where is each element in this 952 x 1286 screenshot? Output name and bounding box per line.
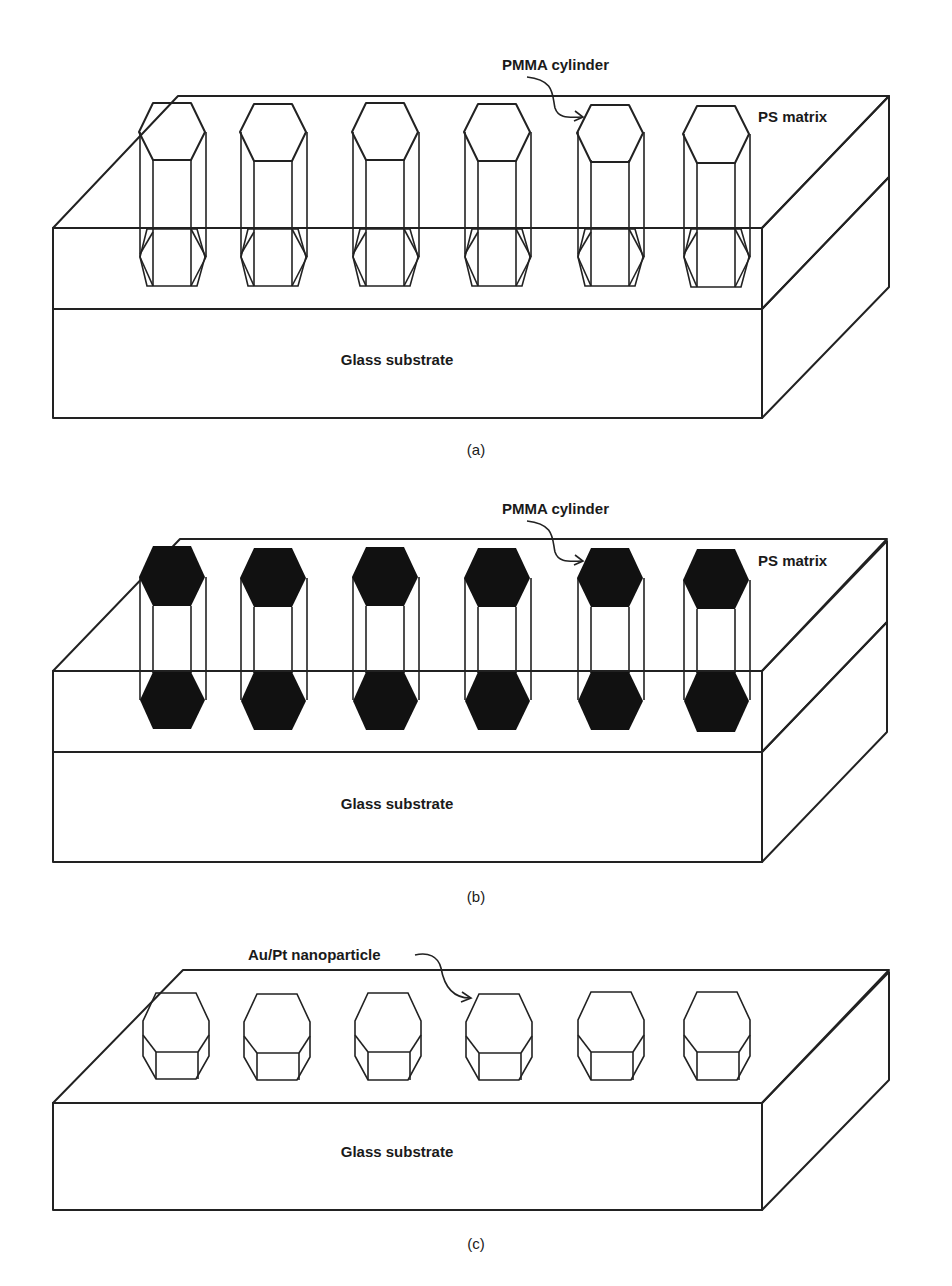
pmma-cylinder [683,106,750,287]
ps-matrix-label: PS matrix [758,108,828,125]
glass-substrate-label: Glass substrate [341,795,454,812]
panel-b: PMMA cylinder PS matrix Glass substrate … [53,500,887,905]
pmma-cylinder [139,103,206,286]
glass-substrate-side-face [762,177,889,418]
pmma-cylinders-filled [139,546,750,732]
glass-substrate-label: Glass substrate [341,351,454,368]
pmma-cylinder-label: PMMA cylinder [502,500,609,517]
pmma-cylinder [577,105,644,286]
glass-substrate-side-face [762,622,887,862]
pmma-cylinder-filled [240,548,307,730]
ps-matrix-side-face [762,96,889,309]
panel-caption-a: (a) [467,441,485,458]
panel-c: Au/Pt nanoparticle Glass substrate (c) [53,946,889,1252]
au-pt-nanoparticle [355,993,421,1080]
pmma-cylinder-filled [352,547,419,730]
pmma-cylinder-label: PMMA cylinder [502,56,609,73]
ps-matrix-front-face [53,228,762,309]
pmma-cylinders [139,103,750,287]
pmma-cylinder-arrow [527,521,582,561]
panel-caption-c: (c) [467,1235,485,1252]
glass-substrate-side-face [762,972,889,1210]
ps-matrix-side-face [762,541,887,752]
block-copolymer-template-diagram: PMMA cylinder PS matrix Glass substrate … [0,0,952,1286]
au-pt-nanoparticle [466,994,532,1080]
pmma-cylinder-filled [683,549,750,732]
ps-matrix-label: PS matrix [758,552,828,569]
pmma-cylinder-filled [577,548,644,730]
au-pt-nanoparticle [578,992,644,1080]
pmma-cylinder [240,104,307,286]
au-pt-nanoparticle-arrow [415,954,470,998]
panel-caption-b: (b) [467,888,485,905]
glass-substrate-label: Glass substrate [341,1143,454,1160]
pmma-cylinder-filled [464,548,531,730]
au-pt-nanoparticle-label: Au/Pt nanoparticle [248,946,381,963]
au-pt-nanoparticle [684,992,750,1080]
pmma-cylinder [464,104,531,286]
pmma-cylinder-filled [139,546,206,729]
pmma-cylinder-arrow [527,77,582,117]
au-pt-nanoparticle [143,993,209,1079]
glass-substrate-top-face [53,970,889,1103]
au-pt-nanoparticle [244,994,310,1080]
panel-a: PMMA cylinder PS matrix Glass substrate … [53,56,889,458]
pmma-cylinder [352,103,419,286]
au-pt-nanoparticles [143,992,750,1080]
